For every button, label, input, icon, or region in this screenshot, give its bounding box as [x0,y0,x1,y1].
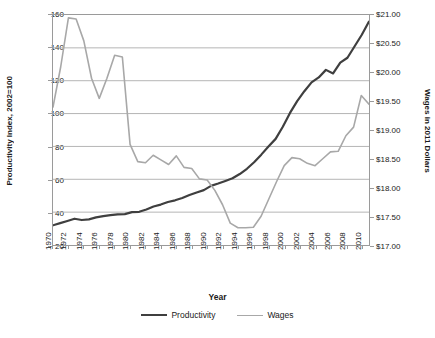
y-axis-right-tick-label: $18.00 [376,184,424,193]
y-axis-left-title: Productivity Index, 2002=100 [0,0,18,262]
y-axis-right-tick-label: $20.50 [376,39,424,48]
x-axis-tickmark [362,246,363,249]
x-axis-tickmark [269,246,270,249]
series-line-wages [53,18,369,228]
y-axis-right-tick-label: $20.00 [376,68,424,77]
x-axis-tickmark [331,246,332,249]
y-axis-right-tickmark [370,43,374,44]
x-axis-tick-label: 1970 [43,232,52,250]
y-axis-right-tick-label: $19.00 [376,126,424,135]
y-axis-right-tickmark [370,188,374,189]
x-axis-tickmark [83,246,84,249]
y-axis-right-tick-label: $21.00 [376,10,424,19]
x-axis-tickmark [254,246,255,249]
y-axis-right-tickmark [370,72,374,73]
x-axis-tickmark [300,246,301,249]
y-axis-right-tick-label: $18.50 [376,155,424,164]
x-axis-tickmark [316,246,317,249]
y-axis-right-tickmark [370,14,374,15]
y-axis-right-tick-label: $17.00 [376,242,424,251]
legend-swatch-wages [237,315,263,316]
legend-entry-wages: Wages [237,310,293,320]
y-axis-right-tickmark [370,217,374,218]
x-axis-tickmark [130,246,131,249]
plot-area [52,14,370,246]
data-series-layer [53,15,369,245]
x-axis-tickmark [176,246,177,249]
x-axis-tickmark [285,246,286,249]
x-axis-tickmark [192,246,193,249]
x-axis-tickmark [52,246,53,249]
y-axis-right-tickmark [370,130,374,131]
x-axis-tickmark [68,246,69,249]
x-axis-tickmark [347,246,348,249]
legend-entry-productivity: Productivity [141,310,215,320]
chart-figure: Productivity Index, 2002=100 Wages in 20… [0,0,435,338]
y-axis-right-tick-label: $17.50 [376,213,424,222]
x-axis-title: Year [0,292,435,302]
x-axis-tickmark [207,246,208,249]
x-axis-tickmark [145,246,146,249]
x-axis-tickmark [99,246,100,249]
x-axis-tickmark [238,246,239,249]
x-axis-tickmark [114,246,115,249]
chart-legend: ProductivityWages [0,310,435,320]
legend-swatch-productivity [141,314,167,316]
y-axis-right-tickmark [370,246,374,247]
legend-label: Wages [267,310,293,320]
x-axis-tickmark [161,246,162,249]
series-line-productivity [53,22,369,226]
y-axis-right-tickmark [370,101,374,102]
x-axis-tickmark [223,246,224,249]
y-axis-right-tick-label: $19.50 [376,97,424,106]
y-axis-right-tickmark [370,159,374,160]
legend-label: Productivity [171,310,215,320]
